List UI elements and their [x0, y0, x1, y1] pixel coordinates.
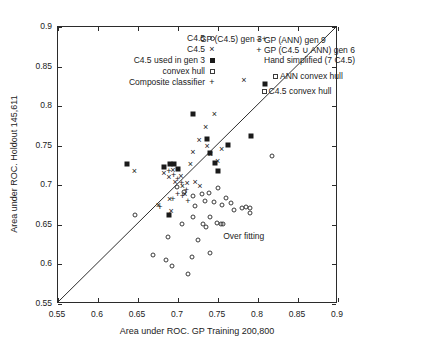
legend-item-label: Composite classifier: [63, 77, 205, 87]
data-point: [216, 186, 221, 191]
x-tick-label: 0.55: [49, 309, 66, 319]
x-tick: [98, 298, 99, 302]
annotation-label: Over fitting: [223, 231, 264, 241]
y-tick-label: 0.65: [22, 219, 52, 229]
y-tick-right: [332, 264, 336, 265]
x-tick-top: [338, 27, 339, 31]
x-tick: [218, 298, 219, 302]
x-axis-label: Area under ROC. GP Training 200,800: [120, 326, 274, 336]
data-point: [249, 133, 254, 138]
data-point: [208, 151, 213, 156]
x-tick-label: 0.7: [171, 309, 183, 319]
legend-item-symbol: ×: [205, 44, 219, 54]
y-tick: [58, 185, 62, 186]
x-tick: [138, 298, 139, 302]
legend-item: ANN convex hull: [254, 71, 355, 85]
marker-square-open-icon: [273, 74, 278, 79]
y-tick-right: [332, 106, 336, 107]
data-point: [125, 162, 130, 167]
data-point: [206, 190, 211, 195]
y-tick-label: 0.8: [22, 100, 52, 110]
marker-plus-icon: +: [256, 36, 261, 45]
x-tick: [298, 298, 299, 302]
x-tick-label: 0.6: [91, 309, 103, 319]
y-tick: [58, 67, 62, 68]
data-point: [203, 224, 208, 229]
annotation: C4.5 convex hull: [262, 86, 332, 96]
data-point: [180, 221, 185, 226]
legend-item-symbol: +: [254, 45, 264, 55]
data-point: [215, 169, 220, 174]
chart-root: Area under ROC. Holdout 145,611 Area und…: [0, 0, 439, 347]
legend-item: C4.5: [63, 33, 243, 44]
legend-item: C4.5 used in gen 3: [63, 55, 243, 66]
legend-item-label: GP (C4.5 ∪ ANN) gen 6: [264, 45, 355, 55]
y-tick-right: [332, 146, 336, 147]
data-point: [208, 250, 213, 255]
data-point: [199, 192, 204, 197]
x-tick: [58, 298, 59, 302]
legend-item-label: convex hull: [63, 66, 205, 76]
data-point: [212, 199, 217, 204]
y-tick-label: 0.6: [22, 258, 52, 268]
y-tick: [58, 304, 62, 305]
marker-square-filled-icon: [210, 58, 215, 63]
data-point: [133, 212, 138, 217]
legend-item-symbol: +: [254, 35, 264, 45]
x-tick: [338, 298, 339, 302]
x-tick-top: [258, 27, 259, 31]
legend-item-label: C4.5 used in gen 3: [63, 55, 205, 65]
data-point: ×: [203, 123, 208, 132]
legend-item: Hand simplified (7 C4.5): [254, 55, 355, 65]
marker-square-open-icon: [210, 69, 215, 74]
x-tick-top: [178, 27, 179, 31]
data-point: [164, 258, 169, 263]
x-tick-top: [138, 27, 139, 31]
x-tick-label: 0.75: [209, 309, 226, 319]
data-point: +: [184, 186, 189, 195]
legend-item-symbol: [205, 55, 219, 65]
legend-item-label: ANN convex hull: [280, 71, 343, 81]
data-point: [150, 252, 155, 257]
data-point: [248, 210, 253, 215]
data-point: ×: [132, 167, 137, 176]
legend-item: C4.5×: [63, 44, 243, 55]
data-point: ×: [197, 182, 202, 191]
x-tick-label: 0.65: [129, 309, 146, 319]
x-tick-label: 0.8: [251, 309, 263, 319]
data-point: [190, 112, 195, 117]
y-tick-label: 0.85: [22, 61, 52, 71]
y-tick-right: [332, 27, 336, 28]
y-tick-label: 0.9: [22, 21, 52, 31]
data-point: +: [157, 203, 162, 212]
legend-item: +GP (ANN) gen 9: [254, 35, 355, 45]
data-point: [166, 235, 171, 240]
x-tick-top: [298, 27, 299, 31]
legend-item-symbol: [205, 66, 219, 76]
data-point: [186, 271, 191, 276]
y-axis-label: Area under ROC. Holdout 145,611: [9, 95, 19, 232]
legend-item: convex hull: [63, 66, 243, 77]
marker-square-open-icon: [262, 89, 267, 94]
legend-item-label: C4.5: [63, 44, 205, 54]
data-point: [220, 203, 225, 208]
marker-x-icon: ×: [209, 45, 214, 54]
y-tick-right: [332, 225, 336, 226]
legend-left: C4.5C4.5×C4.5 used in gen 3convex hullCo…: [63, 33, 243, 88]
marker-plus-icon: +: [256, 46, 261, 55]
x-tick: [258, 298, 259, 302]
data-point: ×: [190, 147, 195, 156]
data-point: [270, 153, 275, 158]
data-point: [226, 143, 231, 148]
legend-item: Composite classifier+: [63, 77, 243, 88]
data-point: +: [185, 196, 190, 205]
data-point: ×: [219, 145, 224, 154]
data-point: [213, 160, 218, 165]
legend-right: +GP (ANN) gen 9+GP (C4.5 ∪ ANN) gen 6Han…: [254, 35, 355, 85]
data-point: [196, 238, 201, 243]
legend-item-label: Hand simplified (7 C4.5): [264, 55, 355, 65]
y-tick: [58, 225, 62, 226]
y-tick-label: 0.75: [22, 140, 52, 150]
data-point: [193, 204, 198, 209]
data-point: [170, 263, 175, 268]
